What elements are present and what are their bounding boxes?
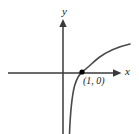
y-axis-arrowhead <box>59 19 66 27</box>
function-curve <box>70 44 131 134</box>
x-axis-arrowhead <box>113 69 122 77</box>
marked-point-dot <box>79 69 84 74</box>
x-axis-label: x <box>125 66 130 77</box>
logarithmic-function-graph: y x (1, 0) <box>0 0 139 134</box>
y-axis-label: y <box>62 6 67 17</box>
graph-canvas <box>0 0 139 134</box>
marked-point-label: (1, 0) <box>83 76 105 86</box>
